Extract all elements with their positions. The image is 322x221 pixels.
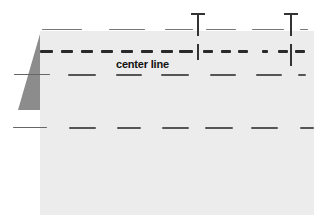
upper-lane-line [0,74,322,78]
marker-stem-lower [290,44,292,66]
shaded-wedge-icon [0,0,322,221]
lower-lane-line [0,127,322,131]
marker-stem-lower [197,44,199,60]
center-line-label: center line [116,58,169,70]
marker-stem-upper [290,13,292,36]
top-edge-line [0,29,322,33]
center-line [0,50,322,54]
marker-stem-upper [197,13,199,36]
